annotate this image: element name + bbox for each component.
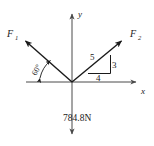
f1-label: F — [6, 28, 14, 39]
f1-subscript: 1 — [15, 34, 18, 41]
force-diagram-container: x y F 1 F 2 60° 5 3 4 784.8N — [0, 0, 154, 146]
f2-label: F — [129, 28, 137, 39]
weight-label: 784.8N — [63, 113, 91, 123]
triangle-horizontal-label: 4 — [96, 73, 101, 83]
triangle-hypotenuse-label: 5 — [90, 52, 95, 62]
x-axis-label: x — [140, 86, 145, 96]
force-diagram-canvas: x y F 1 F 2 60° 5 3 4 784.8N — [0, 0, 154, 146]
f2-subscript: 2 — [138, 34, 142, 41]
triangle-vertical-label: 3 — [112, 60, 117, 70]
y-axis-label: y — [77, 9, 82, 19]
